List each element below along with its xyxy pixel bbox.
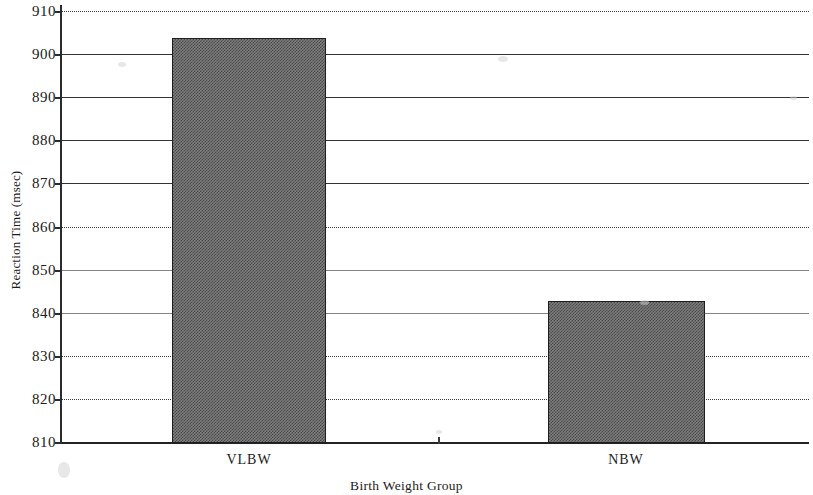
y-axis-tick — [55, 11, 62, 13]
y-axis-tick — [55, 140, 62, 142]
y-tick-label: 830 — [4, 349, 56, 364]
x-tick-label-nbw: NBW — [547, 452, 705, 468]
y-tick-label: 910 — [4, 4, 56, 19]
gridline — [61, 11, 809, 12]
y-axis-tick — [55, 270, 62, 272]
y-tick-label: 870 — [4, 176, 56, 191]
x-tick-label-vlbw: VLBW — [170, 452, 328, 468]
y-tick-label: 840 — [4, 306, 56, 321]
y-axis-tick — [55, 54, 62, 56]
y-axis-tick — [55, 442, 62, 444]
y-axis-tick-labels: 910900890880870860850840830820810 — [0, 0, 56, 495]
scan-speckle — [58, 462, 70, 478]
y-axis-tick — [55, 227, 62, 229]
bar-vlbw — [172, 38, 326, 443]
y-tick-label: 860 — [4, 220, 56, 235]
y-axis-tick — [55, 183, 62, 185]
plot-area — [61, 12, 809, 443]
y-tick-label: 900 — [4, 47, 56, 62]
y-tick-label: 820 — [4, 392, 56, 407]
bar-chart: Reaction Time (msec) 9109008908808708608… — [0, 0, 813, 495]
y-tick-label: 850 — [4, 263, 56, 278]
y-tick-label: 880 — [4, 133, 56, 148]
bar-nbw — [548, 301, 705, 443]
y-axis-tick — [55, 313, 62, 315]
x-axis-inner-tick — [438, 437, 440, 444]
y-axis-tick — [55, 97, 62, 99]
y-tick-label: 890 — [4, 90, 56, 105]
y-tick-label: 810 — [4, 435, 56, 450]
y-axis-line — [60, 5, 62, 444]
y-axis-tick — [55, 399, 62, 401]
x-axis-title: Birth Weight Group — [0, 478, 813, 494]
y-axis-tick — [55, 356, 62, 358]
